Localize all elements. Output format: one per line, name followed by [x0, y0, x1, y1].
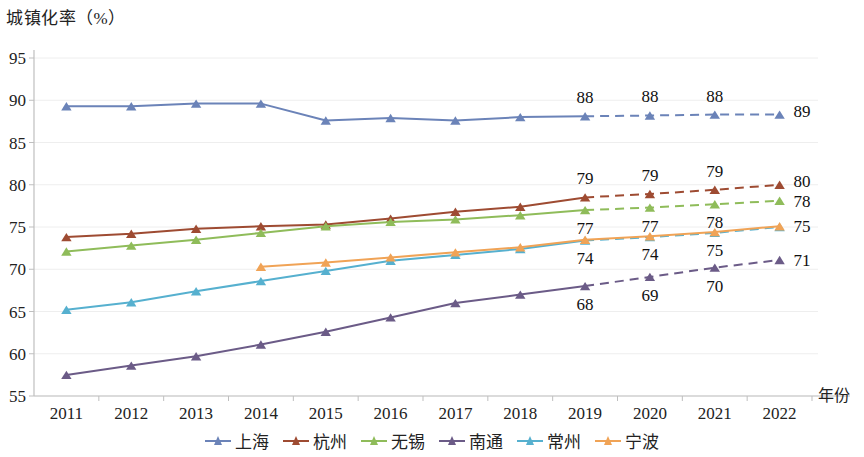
chart-legend: 上海杭州无锡南通常州宁波 — [0, 428, 864, 453]
legend-item-6[interactable]: 宁波 — [595, 428, 659, 453]
x-axis-tick-label: 2015 — [309, 404, 343, 423]
data-point-label: 75 — [706, 241, 723, 260]
series-line-solid — [66, 197, 585, 237]
legend-marker-icon — [595, 435, 621, 447]
y-axis-tick-label: 70 — [9, 260, 26, 279]
legend-item-4[interactable]: 南通 — [439, 428, 503, 453]
data-point-label: 79 — [641, 166, 658, 185]
x-axis-tick-label: 2021 — [698, 404, 732, 423]
data-point-label: 75 — [794, 217, 811, 236]
series-marker — [774, 197, 784, 205]
legend-item-3[interactable]: 无锡 — [361, 428, 425, 453]
y-axis-tick-label: 95 — [9, 49, 26, 68]
series-line-solid — [66, 210, 585, 251]
data-point-label: 88 — [641, 87, 658, 106]
data-point-label: 79 — [706, 162, 723, 181]
legend-item-2[interactable]: 杭州 — [283, 428, 347, 453]
legend-marker-icon — [205, 435, 231, 447]
y-axis-tick-label: 90 — [9, 91, 26, 110]
series-line-solid — [66, 241, 585, 310]
legend-marker-icon — [517, 435, 543, 447]
series-line-dashed — [585, 185, 780, 198]
legend-marker-icon — [283, 435, 309, 447]
legend-item-5[interactable]: 常州 — [517, 428, 581, 453]
series-line-dashed — [585, 201, 780, 210]
y-axis-tick-label: 60 — [9, 345, 26, 364]
series-marker — [774, 256, 784, 264]
data-point-label: 74 — [641, 245, 659, 264]
data-point-label: 78 — [794, 192, 811, 211]
legend-label: 无锡 — [391, 428, 425, 453]
data-point-label: 69 — [641, 286, 658, 305]
legend-label: 杭州 — [313, 428, 347, 453]
x-axis-tick-label: 2019 — [568, 404, 602, 423]
data-point-label: 68 — [577, 295, 594, 314]
y-axis-tick-label: 65 — [9, 303, 26, 322]
data-point-label: 71 — [794, 251, 811, 270]
series-line-dashed — [585, 115, 780, 117]
legend-label: 南通 — [469, 428, 503, 453]
y-axis-tick-label: 80 — [9, 176, 26, 195]
legend-label: 上海 — [235, 428, 269, 453]
data-point-label: 88 — [577, 88, 594, 107]
x-axis-tick-label: 2011 — [50, 404, 83, 423]
x-axis-tick-label: 2014 — [244, 404, 279, 423]
x-axis-tick-label: 2022 — [763, 404, 797, 423]
x-axis-tick-label: 2016 — [374, 404, 408, 423]
legend-marker-icon — [361, 435, 387, 447]
data-point-label: 80 — [794, 172, 811, 191]
y-axis-tick-label: 85 — [9, 134, 26, 153]
y-axis-tick-label: 75 — [9, 218, 26, 237]
x-axis-tick-label: 2017 — [438, 404, 473, 423]
x-axis-title: 年份 — [818, 382, 850, 406]
series-marker — [774, 110, 784, 118]
data-point-label: 77 — [577, 219, 595, 238]
urbanization-rate-line-chart: 城镇化率（%） 55606570758085909520112012201320… — [0, 0, 864, 457]
data-point-label: 89 — [794, 102, 811, 121]
data-point-label: 70 — [706, 277, 723, 296]
y-axis-tick-label: 55 — [9, 387, 26, 406]
legend-label: 宁波 — [625, 428, 659, 453]
x-axis-tick-label: 2013 — [179, 404, 213, 423]
x-axis-tick-label: 2012 — [114, 404, 148, 423]
data-point-label: 79 — [577, 169, 594, 188]
x-axis-tick-label: 2018 — [503, 404, 537, 423]
plot-area: 5560657075808590952011201220132014201520… — [0, 0, 864, 457]
legend-item-1[interactable]: 上海 — [205, 428, 269, 453]
legend-marker-icon — [439, 435, 465, 447]
legend-label: 常州 — [547, 428, 581, 453]
data-point-label: 88 — [706, 87, 723, 106]
x-axis-tick-label: 2020 — [633, 404, 667, 423]
data-point-label: 74 — [577, 249, 595, 268]
series-line-dashed — [585, 260, 780, 286]
